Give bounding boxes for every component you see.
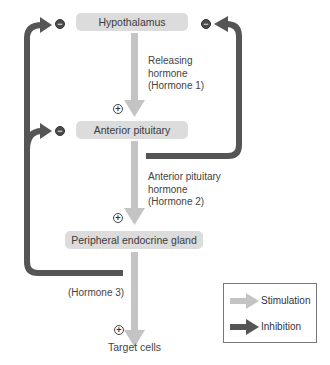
- stimulation-sign-peripheral-gland: +: [113, 213, 123, 223]
- hormone-1-line1: Releasing: [148, 55, 204, 68]
- legend-stimulation-label: Stimulation: [261, 293, 310, 309]
- inhibition-sign-anterior-pituitary: −: [55, 126, 65, 136]
- node-hypothalamus: Hypothalamus: [76, 13, 188, 31]
- node-anterior-pituitary: Anterior pituitary: [76, 121, 188, 139]
- hormone-1-line3: (Hormone 1): [148, 80, 204, 93]
- hormone-1-label: Releasing hormone (Hormone 1): [148, 55, 204, 93]
- legend: Stimulation Inhibition: [223, 283, 317, 343]
- legend-inhibition: Inhibition: [224, 319, 316, 335]
- hormone-3-label: (Hormone 3): [68, 287, 124, 300]
- stimulation-sign-target-cells: +: [114, 325, 124, 335]
- legend-inhibition-label: Inhibition: [261, 319, 301, 335]
- inhibition-sign-hypothalamus-right: −: [201, 19, 211, 29]
- stimulation-sign-anterior-pituitary: +: [113, 104, 123, 114]
- node-target-cells: Target cells: [108, 341, 161, 354]
- hormone-2-label: Anterior pituitary hormone (Hormone 2): [148, 171, 221, 209]
- node-peripheral-endocrine-gland: Peripheral endocrine gland: [65, 231, 203, 249]
- hormone-2-line3: (Hormone 2): [148, 196, 221, 209]
- hormone-2-line1: Anterior pituitary: [148, 171, 221, 184]
- legend-stimulation: Stimulation: [224, 293, 316, 309]
- hormone-2-line2: hormone: [148, 184, 221, 197]
- inhibition-sign-hypothalamus-left: −: [55, 19, 65, 29]
- hormone-1-line2: hormone: [148, 68, 204, 81]
- stimulation-arrows: [124, 33, 145, 347]
